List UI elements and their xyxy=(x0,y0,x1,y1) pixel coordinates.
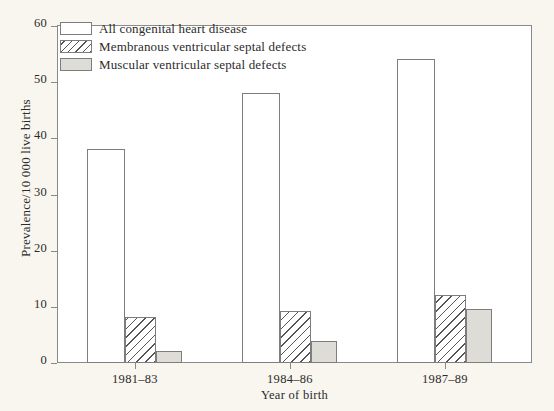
legend-item-membranous: Membranous ventricular septal defects xyxy=(60,38,360,55)
x-tick-label: 1981–83 xyxy=(90,372,180,387)
y-tick-label: 60 xyxy=(34,17,47,29)
x-tick-label: 1987–89 xyxy=(400,372,490,387)
legend: All congenital heart disease Membranous … xyxy=(60,20,360,74)
legend-item-muscular: Muscular ventricular septal defects xyxy=(60,56,360,73)
x-tick-mark xyxy=(290,363,291,369)
bars-layer xyxy=(57,25,532,363)
legend-item-all: All congenital heart disease xyxy=(60,20,360,37)
legend-swatch-all-icon xyxy=(60,22,92,35)
bar-all-1984-86 xyxy=(242,93,280,363)
x-tick-label: 1984–86 xyxy=(245,372,335,387)
bar-membranous-1981-83 xyxy=(125,317,156,363)
bar-chart: 60 50 40 30 20 10 0 Prevalence/10 000 li… xyxy=(0,0,554,411)
y-tick-label: 40 xyxy=(34,129,47,141)
x-axis-title: Year of birth xyxy=(57,388,532,403)
bar-muscular-1984-86 xyxy=(311,341,337,363)
y-tick-label: 10 xyxy=(34,298,47,310)
y-tick-label: 30 xyxy=(34,186,47,198)
y-tick-mark xyxy=(51,363,57,364)
legend-label-muscular: Muscular ventricular septal defects xyxy=(99,57,287,73)
legend-swatch-muscular-icon xyxy=(60,58,92,71)
bar-membranous-1987-89 xyxy=(435,295,466,363)
y-tick-label: 50 xyxy=(34,73,47,85)
y-tick-label: 0 xyxy=(41,354,47,366)
y-axis-title: Prevalence/10 000 live births xyxy=(18,48,34,308)
y-tick-label: 20 xyxy=(34,242,47,254)
x-tick-mark xyxy=(445,363,446,369)
legend-label-membranous: Membranous ventricular septal defects xyxy=(99,39,306,55)
bar-muscular-1987-89 xyxy=(466,309,492,363)
legend-swatch-membranous-icon xyxy=(60,40,92,53)
bar-muscular-1981-83 xyxy=(156,351,182,363)
bar-all-1981-83 xyxy=(87,149,125,363)
bar-all-1987-89 xyxy=(397,59,435,363)
x-tick-mark xyxy=(135,363,136,369)
bar-membranous-1984-86 xyxy=(280,311,311,363)
legend-label-all: All congenital heart disease xyxy=(99,21,247,37)
